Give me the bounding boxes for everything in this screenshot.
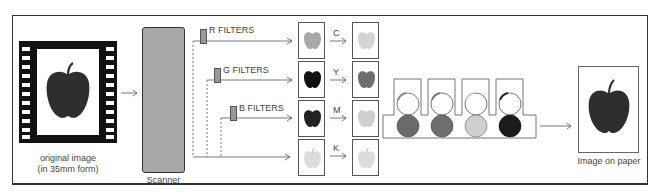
apple-icon xyxy=(579,67,640,154)
output-paper xyxy=(578,66,639,153)
printing-press xyxy=(0,0,661,195)
image-on-paper-label: Image on paper xyxy=(566,156,652,167)
